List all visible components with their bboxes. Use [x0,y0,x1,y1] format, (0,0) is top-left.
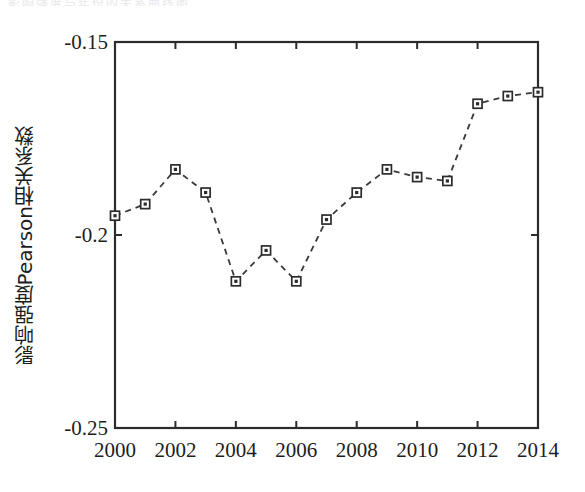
data-point-center [446,179,449,182]
data-point-center [204,191,207,194]
data-point-center [385,168,388,171]
x-tick-label: 2010 [396,438,438,463]
x-tick-label: 2012 [457,438,499,463]
x-tick-label: 2008 [336,438,378,463]
data-point-center [506,94,509,97]
y-tick-label: -0.25 [40,416,108,441]
data-point-center [113,214,116,217]
x-tick-label: 2014 [517,438,559,463]
data-point-center [355,191,358,194]
x-tick-label: 2002 [154,438,196,463]
data-point-center [325,218,328,221]
chart-figure: 影响强度与年份的关系曲线图 影响强度Pearson相关系数 2000: -0.1… [0,0,585,492]
data-point-center [295,280,298,283]
data-point-center [416,176,419,179]
data-point-center [144,203,147,206]
data-point-center [234,280,237,283]
x-tick-label: 2006 [275,438,317,463]
y-tick-label: -0.15 [40,30,108,55]
x-tick-label: 2004 [215,438,257,463]
data-point-center [264,249,267,252]
x-tick-label: 2000 [94,438,136,463]
data-point-center [174,168,177,171]
y-tick-label: -0.2 [40,223,108,248]
data-line [115,92,538,281]
data-point-center [476,102,479,105]
data-point-center [536,91,539,94]
